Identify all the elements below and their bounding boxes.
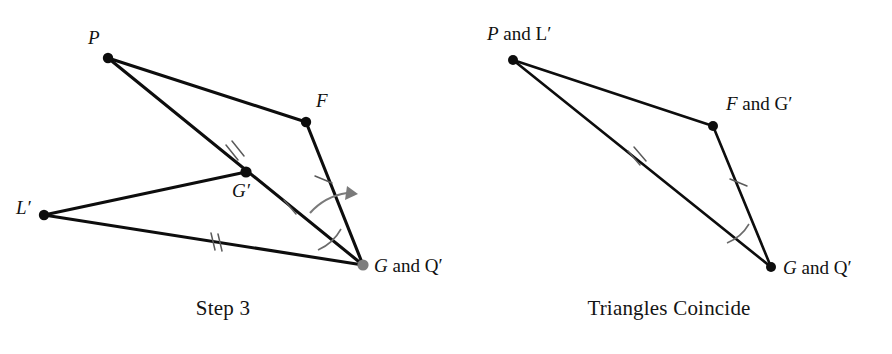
tick-single-Gprime-G <box>284 200 296 214</box>
panel-step-3: P F L′ G′ G and Q′ <box>15 27 443 276</box>
vertex-label-P-and-L-prime: P and L′ <box>486 23 551 44</box>
vertex-label-G-prime: G′ <box>232 180 251 201</box>
vertex-dot-F <box>301 117 311 127</box>
vertex-dot-L-prime <box>39 210 49 220</box>
panel-triangles-coincide: P and L′ F and G′ G and Q′ <box>486 23 852 278</box>
rotation-arrow-head <box>345 186 358 200</box>
vertex-label-G-and-Q-prime-step3: G and Q′ <box>374 255 443 276</box>
vertex-label-G-and-Q-prime-coincide: G and Q′ <box>783 257 852 278</box>
vertex-dot-F-and-G-prime <box>708 121 718 131</box>
caption-step-3: Step 3 <box>0 296 446 321</box>
edge-Lprime-G <box>44 215 363 265</box>
vertex-dot-P <box>103 53 113 63</box>
edge-PL-FG <box>513 60 713 126</box>
vertex-label-P: P <box>87 27 100 48</box>
edge-Lprime-Gprime <box>44 172 246 215</box>
vertex-dot-P-and-L-prime <box>508 55 518 65</box>
vertex-dot-G-and-Q-prime-step3 <box>357 259 368 270</box>
vertex-label-F: F <box>315 90 328 111</box>
vertex-label-L-prime: L′ <box>15 197 32 218</box>
caption-triangles-coincide: Triangles Coincide <box>446 296 892 321</box>
vertex-dot-G-and-Q-prime-coincide <box>766 262 776 272</box>
edge-P-F <box>108 58 306 122</box>
vertex-dot-G-prime <box>240 166 251 177</box>
vertex-label-F-and-G-prime: F and G′ <box>725 93 792 114</box>
figure-page: P F L′ G′ G and Q′ <box>0 0 892 354</box>
edge-FG-GQ <box>713 126 771 267</box>
edge-PL-GQ <box>513 60 771 267</box>
